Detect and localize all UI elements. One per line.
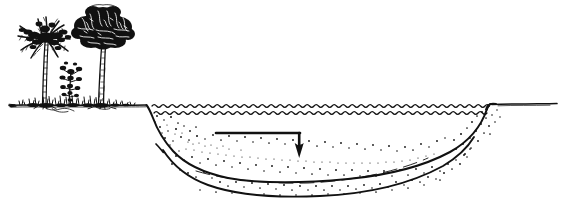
basin-bed-upper: [228, 109, 487, 182]
broadleaf-tree: [71, 5, 135, 109]
reservoir-basin: [147, 103, 497, 197]
basin-bed-lower: [163, 137, 474, 197]
water-surface: [152, 105, 490, 115]
reservoir-cross-section-drawing: [0, 0, 563, 209]
left-bank-slope: [147, 105, 229, 178]
ground-line-right: [492, 104, 557, 105]
water-wave-line-lower: [154, 112, 487, 115]
ground-line-right-shadow: [498, 105, 550, 106]
water-wave-line-upper: [152, 105, 490, 108]
shrub: [60, 61, 83, 105]
broadleaf-trunk-left: [99, 42, 103, 105]
basin-bed-lower-dash-left: [156, 144, 164, 153]
broadleaf-trunk-right: [104, 42, 106, 105]
figure-root: Reservoir cross-section with sediment de…: [0, 0, 563, 209]
